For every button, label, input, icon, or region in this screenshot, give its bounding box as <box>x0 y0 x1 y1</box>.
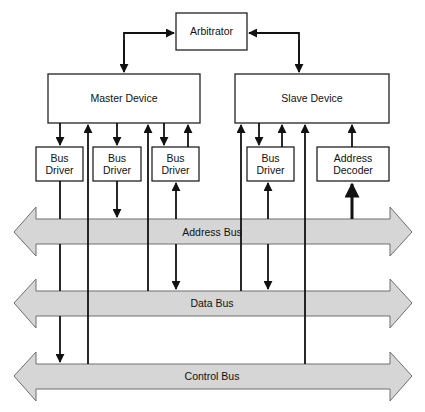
data-bus: Data Bus <box>14 279 412 328</box>
slave-to-arbitrator-arrow <box>249 33 299 72</box>
address-bus-label: Address Bus <box>182 226 242 238</box>
bus-driver-1-label-line2: Driver <box>46 164 75 176</box>
master-device-label: Master Device <box>90 92 157 104</box>
address-decoder-label-line2: Decoder <box>333 164 373 176</box>
address-decoder-label-line1: Address <box>334 152 373 164</box>
bus-driver-3: Bus Driver <box>152 147 199 181</box>
control-bus-label: Control Bus <box>185 370 240 382</box>
bus-driver-2-label-line1: Bus <box>108 152 126 164</box>
slave-device-label: Slave Device <box>281 92 342 104</box>
control-bus: Control Bus <box>14 352 412 401</box>
bus-driver-4: Bus Driver <box>247 147 294 181</box>
data-bus-label: Data Bus <box>190 297 233 309</box>
arbitrator-box: Arbitrator <box>176 13 247 50</box>
master-to-arbitrator-arrow <box>124 33 174 72</box>
address-decoder-box: Address Decoder <box>317 147 389 181</box>
bus-driver-3-label-line1: Bus <box>166 152 184 164</box>
bus-driver-2: Bus Driver <box>93 147 141 181</box>
master-device-box: Master Device <box>48 74 200 123</box>
bus-driver-4-label-line1: Bus <box>261 152 279 164</box>
slave-device-box: Slave Device <box>235 74 389 123</box>
system-bus-diagram: Address Bus Data Bus Control Bus Arbitra… <box>0 0 425 412</box>
bus-driver-4-label-line2: Driver <box>257 164 286 176</box>
bus-driver-1-label-line1: Bus <box>50 152 68 164</box>
bus-driver-2-label-line2: Driver <box>103 164 132 176</box>
bus-driver-1: Bus Driver <box>36 147 83 181</box>
bus-driver-3-label-line2: Driver <box>162 164 191 176</box>
arbitrator-label: Arbitrator <box>190 25 234 37</box>
